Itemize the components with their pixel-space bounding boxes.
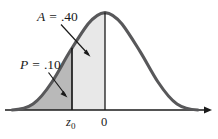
area-label: A=.40 xyxy=(36,9,78,24)
probability-label-value: .10 xyxy=(44,57,61,72)
axis-arrowhead-icon xyxy=(204,107,212,114)
probability-label-equals: = xyxy=(32,57,40,72)
axis-tick-label-z0: z0 xyxy=(65,115,76,131)
axis-tick-z0-subscript: 0 xyxy=(71,121,76,131)
axis-tick-label-mean: 0 xyxy=(101,115,107,129)
area-label-value: .40 xyxy=(61,9,78,24)
probability-label-variable: P xyxy=(19,57,28,72)
probability-label: P=.10 xyxy=(19,57,61,72)
distribution-diagram-svg: A=.40 P=.10 z0 0 xyxy=(0,0,218,139)
shaded-region-z0-to-mean xyxy=(72,13,105,110)
area-label-variable: A xyxy=(36,9,46,24)
area-label-equals: = xyxy=(49,9,57,24)
normal-curve-figure: A=.40 P=.10 z0 0 xyxy=(0,0,218,139)
